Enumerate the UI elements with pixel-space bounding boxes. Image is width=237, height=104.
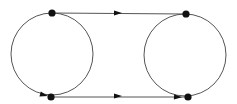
arrowhead-icon [114,10,122,15]
node-top-left [48,9,55,16]
node-bottom-right [184,93,191,100]
nodes-group [47,9,191,100]
node-top-right [182,10,189,17]
node-bottom-left [47,93,54,100]
right-circle [144,14,226,96]
diagram-canvas [0,0,237,104]
circles-group [11,13,226,96]
arrowheads-group [39,10,182,99]
left-circle [11,13,93,95]
edges-group [51,13,188,97]
arrowhead-icon [114,93,122,98]
